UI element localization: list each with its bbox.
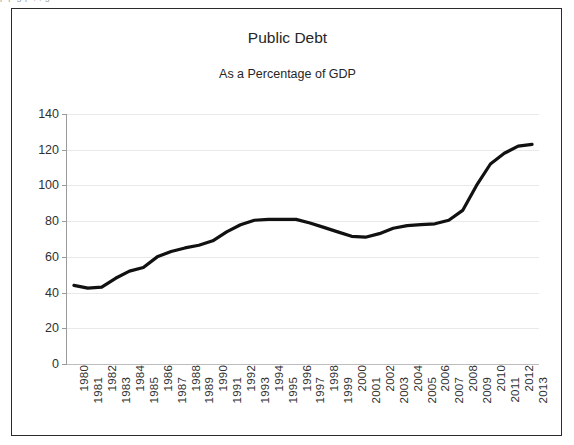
x-tick-label: 2012 <box>523 365 535 391</box>
chart-title: Public Debt <box>12 29 563 47</box>
x-tick-label: 1995 <box>287 377 299 403</box>
plot-area: 020406080100120140 <box>67 114 539 364</box>
x-tick-label: 2002 <box>384 365 396 391</box>
y-tick-label: 100 <box>38 178 59 192</box>
x-tick-label: 1999 <box>342 377 354 403</box>
x-tick-label: 2009 <box>481 377 493 403</box>
y-tick-label: 80 <box>45 214 59 228</box>
x-axis: 1980198119821983198419851986198719881989… <box>67 365 539 437</box>
x-tick-label: 1998 <box>328 365 340 391</box>
x-tick-label: 2005 <box>426 377 438 403</box>
x-tick-label: 1980 <box>78 365 90 391</box>
x-tick-label: 2008 <box>467 365 479 391</box>
y-tick-label: 40 <box>45 286 59 300</box>
x-tick-label: 1983 <box>120 377 132 403</box>
x-tick-label: 1984 <box>134 365 146 391</box>
x-tick-label: 2013 <box>537 377 549 403</box>
x-tick-label: 1987 <box>176 377 188 403</box>
scan-top-artifact: p p g p , , g <box>0 0 574 8</box>
x-tick-label: 1990 <box>217 365 229 391</box>
scan-top-artifact-text: p p g p , , g <box>0 0 574 2</box>
x-tick-label: 1992 <box>245 365 257 391</box>
x-tick-label: 2010 <box>495 365 507 391</box>
x-tick-label: 2006 <box>439 365 451 391</box>
x-tick-label: 1993 <box>259 377 271 403</box>
x-tick-label: 1994 <box>273 365 285 391</box>
x-tick-label: 2011 <box>509 377 521 403</box>
x-tick-label: 1996 <box>301 365 313 391</box>
y-tick-label: 120 <box>38 143 59 157</box>
y-tick-label: 20 <box>45 321 59 335</box>
y-tick-label: 60 <box>45 250 59 264</box>
x-tick-label: 2001 <box>370 377 382 403</box>
x-tick-label: 1981 <box>92 377 104 403</box>
x-tick-label: 1985 <box>148 377 160 403</box>
x-tick-label: 1989 <box>203 377 215 403</box>
x-tick-label: 2003 <box>398 377 410 403</box>
y-tick-label: 140 <box>38 107 59 121</box>
figure-frame: Public Debt As a Percentage of GDP 02040… <box>11 8 562 436</box>
x-tick-label: 2000 <box>356 365 368 391</box>
debt-series-chart <box>67 114 539 364</box>
x-tick-label: 1988 <box>190 365 202 391</box>
x-tick-label: 1997 <box>314 377 326 403</box>
public-debt-line <box>74 144 532 288</box>
x-tick-label: 2004 <box>412 365 424 391</box>
x-tick-label: 1982 <box>106 365 118 391</box>
chart-subtitle: As a Percentage of GDP <box>12 67 563 81</box>
x-tick-label: 1991 <box>231 377 243 403</box>
y-tick-label: 0 <box>52 357 59 371</box>
x-tick-label: 1986 <box>162 365 174 391</box>
x-tick-label: 2007 <box>453 377 465 403</box>
